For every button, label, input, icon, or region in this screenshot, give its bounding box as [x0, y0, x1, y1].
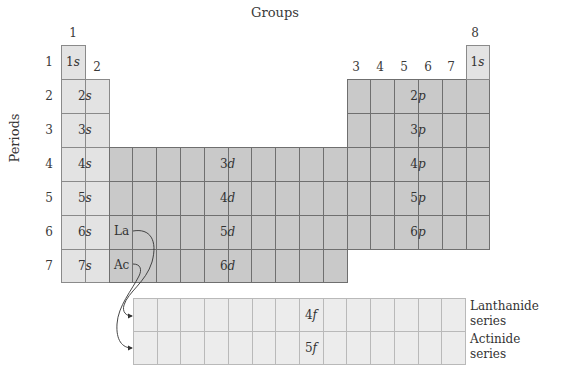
- f-block-arrows-icon: [0, 0, 571, 382]
